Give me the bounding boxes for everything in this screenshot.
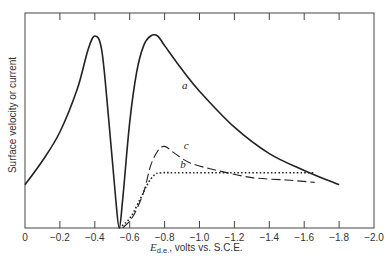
curve-label-b: b <box>180 158 186 170</box>
x-tick-label: −0.6 <box>120 232 140 243</box>
series-a-line <box>25 35 339 228</box>
x-tick-label: −0.2 <box>50 232 70 243</box>
chart-container: 0−0.2−0.4−0.6−0.8−1.0−1.2−1.4−1.6−1.8−2.… <box>0 0 390 260</box>
curve-label-c: c <box>184 139 189 151</box>
x-tick-label: −1.4 <box>259 232 279 243</box>
x-axis-symbol: E <box>150 241 157 253</box>
x-axis-subscript: d.e. <box>157 246 170 255</box>
x-tick-label: 0 <box>22 232 28 243</box>
x-tick-label: −1.6 <box>294 232 314 243</box>
plot-area: 0−0.2−0.4−0.6−0.8−1.0−1.2−1.4−1.6−1.8−2.… <box>0 0 390 260</box>
series-c-line <box>123 146 315 228</box>
y-axis-label: Surface velocity or current <box>7 45 21 185</box>
curve-label-a: a <box>182 79 188 91</box>
x-tick-label: −2.0 <box>364 232 384 243</box>
plot-frame <box>25 13 374 228</box>
series-b-line <box>119 173 314 228</box>
x-axis-unit: , volts vs. S.C.E. <box>169 242 242 253</box>
x-tick-label: −1.8 <box>329 232 349 243</box>
x-axis-label: Ed.e., volts vs. S.C.E. <box>150 241 243 255</box>
x-tick-label: −0.4 <box>85 232 105 243</box>
